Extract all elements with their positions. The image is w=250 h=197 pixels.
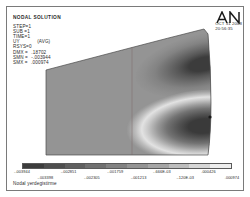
legend-swatch-5 [127,164,148,168]
legend-tick-1: -.003398 [37,175,53,180]
legend-tick-5: -.001213 [131,175,147,180]
legend-tick-3: -.002305 [84,175,100,180]
ansys-graphics-screenshot: NODAL SOLUTION STEP=1 SUB =1 TIME=1 UY (… [0,0,250,197]
legend-swatch-0 [23,164,44,168]
legend-swatch-6 [148,164,169,168]
legend-swatch-7 [169,164,190,168]
info-label-smx: SMX = [13,60,28,65]
legend-tick-6: -.666E-03 [153,169,171,174]
legend-tick-4: -.001759 [107,169,123,174]
legend-tick-7: -.120E-03 [176,175,194,180]
legend-swatch-8 [189,164,210,168]
legend-swatch-2 [65,164,86,168]
legend-tick-9: .000974 [225,175,239,180]
max-value-marker [208,115,211,118]
info-value-smx: .000974 [31,60,49,65]
solution-info-block: NODAL SOLUTION STEP=1 SUB =1 TIME=1 UY (… [13,15,108,65]
legend-swatch-1 [44,164,65,168]
legend-swatch-9 [210,164,231,168]
stamp-time: 20:56:35 [215,26,242,31]
legend-tick-8: .000426 [201,169,215,174]
legend-tick-0: -.003944 [14,169,30,174]
plot-caption: Nodal yerdegistirme [13,181,57,186]
legend-swatch-3 [85,164,106,168]
info-row-smx: SMX = .000974 [13,60,108,65]
solution-title: NODAL SOLUTION [13,15,108,20]
contour-legend-labels: -.003944-.003398-.002851-.002305-.001759… [10,169,242,181]
legend-tick-2: -.002851 [61,169,77,174]
date-time-stamp: OCT 31 2008 20:56:35 [215,21,242,31]
legend-swatch-4 [106,164,127,168]
info-note-avg: (AVG) [37,39,50,44]
